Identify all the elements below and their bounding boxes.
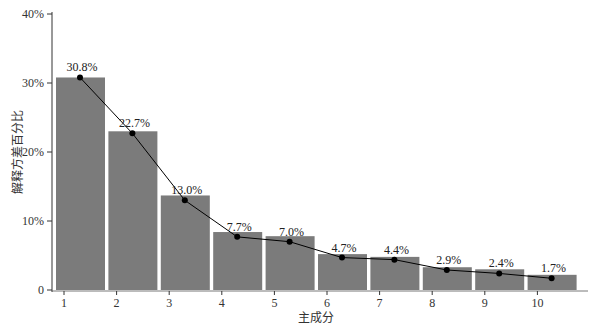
- x-tick-label: 1: [61, 296, 67, 310]
- value-label: 13.0%: [171, 183, 202, 197]
- value-label: 1.7%: [541, 261, 566, 275]
- value-label: 4.4%: [384, 243, 409, 257]
- value-label: 22.7%: [119, 116, 150, 130]
- y-tick-label: 10%: [22, 214, 44, 228]
- y-tick-label: 40%: [22, 7, 44, 21]
- data-point-marker: [77, 74, 83, 80]
- value-label: 30.8%: [67, 60, 98, 74]
- bar-3: [161, 195, 210, 290]
- data-point-marker: [129, 130, 135, 136]
- data-point-marker: [287, 239, 293, 245]
- data-point-marker: [549, 275, 555, 281]
- data-point-marker: [182, 197, 188, 203]
- data-point-marker: [339, 255, 345, 261]
- x-ticks: 12345678910: [61, 291, 543, 310]
- x-tick-label: 5: [271, 296, 277, 310]
- data-point-marker: [391, 257, 397, 263]
- data-point-marker: [234, 234, 240, 240]
- data-point-marker: [496, 270, 502, 276]
- y-tick-label: 30%: [22, 76, 44, 90]
- x-axis-title: 主成分: [298, 311, 334, 325]
- bar-4: [213, 232, 262, 290]
- y-tick-label: 20%: [22, 145, 44, 159]
- y-ticks: 010%20%30%40%: [22, 7, 52, 297]
- x-tick-label: 10: [531, 296, 543, 310]
- data-point-marker: [444, 267, 450, 273]
- y-axis-title: 解释方差百分比: [10, 110, 25, 194]
- x-tick-label: 7: [377, 296, 383, 310]
- x-tick-label: 8: [429, 296, 435, 310]
- value-label: 2.4%: [489, 256, 514, 270]
- x-tick-label: 3: [166, 296, 172, 310]
- x-tick-label: 2: [114, 296, 120, 310]
- value-label: 7.7%: [227, 220, 252, 234]
- x-tick-label: 4: [219, 296, 225, 310]
- value-label: 2.9%: [436, 253, 461, 267]
- x-tick-label: 6: [324, 296, 330, 310]
- x-tick-label: 9: [482, 296, 488, 310]
- value-label: 4.7%: [332, 241, 357, 255]
- y-tick-label: 0: [38, 283, 44, 297]
- scree-chart: 010%20%30%40% 12345678910 30.8%22.7%13.0…: [0, 0, 594, 333]
- value-label: 7.0%: [279, 225, 304, 239]
- bar-1: [56, 77, 105, 290]
